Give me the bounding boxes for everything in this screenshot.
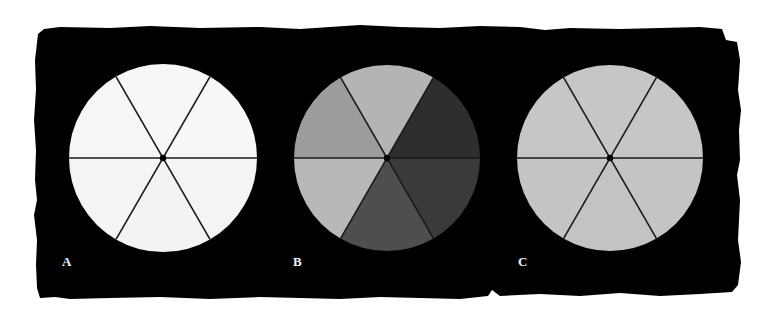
center-pivot-dot <box>384 155 390 161</box>
panel-label-b: B <box>293 255 302 268</box>
panel-label-c: C <box>518 255 527 268</box>
disc-c <box>517 65 703 251</box>
panel-label-a: A <box>62 255 71 268</box>
figure-canvas <box>0 0 767 320</box>
disc-b <box>294 65 480 251</box>
color-disc-figure: A B C <box>0 0 767 320</box>
center-pivot-dot <box>607 155 613 161</box>
center-pivot-dot <box>160 155 166 161</box>
disc-a <box>69 64 257 252</box>
